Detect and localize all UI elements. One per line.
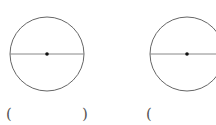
circle-right-figure xyxy=(150,17,216,91)
center-dot xyxy=(45,52,49,56)
answer-close-paren-left: ) xyxy=(82,107,88,122)
answer-open-paren-left: ( xyxy=(6,107,12,122)
center-dot xyxy=(185,52,189,56)
answer-open-paren-right: ( xyxy=(146,107,152,122)
figure-canvas xyxy=(0,0,216,125)
circle-left-figure xyxy=(10,17,84,91)
